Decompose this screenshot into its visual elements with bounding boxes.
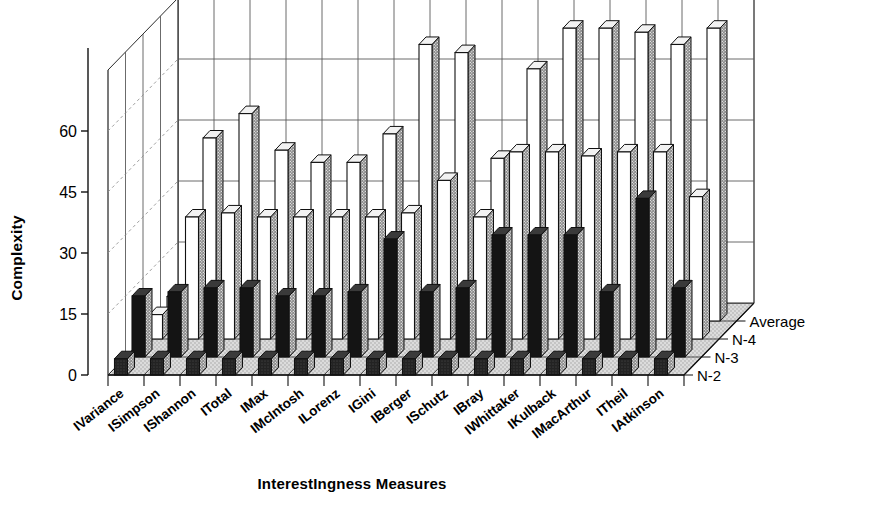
depth-axis-label-n-2: N-2 <box>697 367 721 384</box>
y-axis-tick-label: 15 <box>59 306 77 323</box>
bar-n-3-iatkinson <box>672 280 692 357</box>
complexity-3d-bar-chart: 015304560IVarianceISimpsonIShannonITotal… <box>0 0 882 526</box>
y-axis-title: Complexity <box>8 215 25 301</box>
bar-n-3-ilorenz <box>348 284 368 357</box>
bar-n-3-ikulback <box>564 228 584 358</box>
y-axis-tick-label: 60 <box>59 123 77 140</box>
y-axis-tick-label: 45 <box>59 184 77 201</box>
bar-n-2-ivariance <box>115 351 135 375</box>
bar-n-3-igini <box>384 232 404 357</box>
bar-n-3-ibray <box>492 228 512 358</box>
bar-n-2-imacarthur <box>583 351 603 375</box>
bar-n-2-iatkinson <box>655 351 675 375</box>
bar-n-3-itotal <box>240 280 260 357</box>
bar-n-2-ishannon <box>187 351 207 375</box>
bar-n-2-ibray <box>475 351 495 375</box>
bar-n-2-imax <box>259 351 279 375</box>
bar-n-3-imax <box>276 289 296 358</box>
bar-n-3-ischutz <box>456 280 476 357</box>
bar-n-3-itheil <box>636 191 656 357</box>
y-axis-tick-label: 0 <box>68 367 77 384</box>
bar-n-3-iberger <box>420 284 440 357</box>
bar-n-2-isimpson <box>151 351 171 375</box>
chart-figure: 015304560IVarianceISimpsonIShannonITotal… <box>0 0 882 526</box>
depth-axis-label-n-3: N-3 <box>715 349 739 366</box>
bar-n-2-ischutz <box>439 351 459 375</box>
y-axis-tick-label: 30 <box>59 245 77 262</box>
bar-n-3-imacarthur <box>600 284 620 357</box>
bar-n-2-itotal <box>223 351 243 375</box>
bar-n-2-imcintosh <box>295 351 315 375</box>
bar-n-2-igini <box>367 351 387 375</box>
bar-n-3-ivariance <box>132 289 152 358</box>
depth-axis-label-average: Average <box>750 313 806 330</box>
bar-n-3-imcintosh <box>312 289 332 358</box>
x-axis-title: InterestIngness Measures <box>257 475 446 492</box>
bar-n-2-iwhittaker <box>511 351 531 375</box>
bar-n-3-ishannon <box>204 280 224 357</box>
bar-n-3-isimpson <box>168 284 188 357</box>
bar-n-2-iberger <box>403 351 423 375</box>
bar-n-3-iwhittaker <box>528 228 548 358</box>
bar-n-2-itheil <box>619 351 639 375</box>
depth-axis-label-n-4: N-4 <box>732 331 756 348</box>
bar-n-2-ikulback <box>547 351 567 375</box>
bar-n-2-ilorenz <box>331 351 351 375</box>
